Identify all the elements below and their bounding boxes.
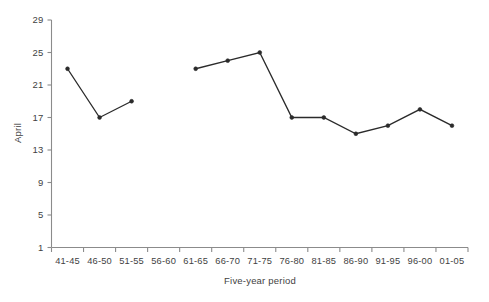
x-tick-label: 61-65 [183,256,208,266]
x-axis-title: Five-year period [224,275,296,286]
x-tick-label: 71-75 [247,256,272,266]
data-point-marker [418,107,422,111]
x-tick-label: 76-80 [279,256,304,266]
x-tick-label: 56-60 [151,256,176,266]
x-tick-label: 46-50 [87,256,112,266]
y-tick-label: 21 [33,79,44,90]
x-tick-label: 01-05 [440,256,465,266]
data-point-marker [66,67,70,71]
data-point-marker [130,99,134,103]
x-tick-label: 81-85 [311,256,336,266]
x-tick-label: 91-95 [376,256,401,266]
chart-canvas: 1591317212529 41-4546-5051-5556-6061-656… [0,0,489,302]
x-tick-label: 51-55 [119,256,144,266]
y-axis-title: April [12,123,23,143]
data-point-marker [226,59,230,63]
y-tick-label: 1 [38,242,43,253]
data-point-marker [98,116,102,120]
data-point-marker [322,116,326,120]
y-tick-label: 25 [33,47,44,58]
data-point-marker [258,51,262,55]
x-tick-label: 66-70 [215,256,240,266]
data-point-marker [450,124,454,128]
y-tick-label: 9 [38,177,43,188]
data-point-marker [194,67,198,71]
data-point-marker [354,132,358,136]
x-tick-label: 86-90 [343,256,368,266]
y-tick-label: 13 [33,144,44,155]
data-point-marker [386,124,390,128]
line-chart: 1591317212529 41-4546-5051-5556-6061-656… [0,0,489,302]
data-point-marker [290,116,294,120]
y-tick-label: 17 [33,112,44,123]
x-tick-label: 96-00 [408,256,433,266]
y-tick-label: 5 [38,209,43,220]
x-tick-label: 41-45 [55,256,80,266]
y-tick-label: 29 [33,14,44,25]
